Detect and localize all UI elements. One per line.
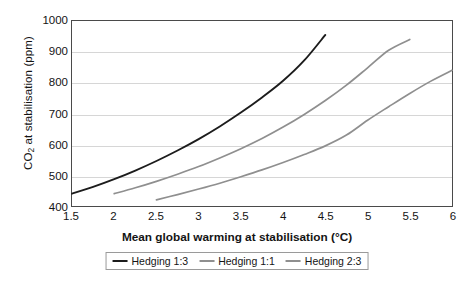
x-axis-tick-label: 6 bbox=[450, 210, 456, 222]
plot-area bbox=[71, 20, 453, 207]
legend-line-icon bbox=[113, 260, 128, 262]
x-axis-tick-label: 5.5 bbox=[403, 210, 419, 222]
x-axis-tick-labels: 1.522.533.544.555.56 bbox=[0, 210, 474, 228]
x-axis-tick-label: 1.5 bbox=[63, 210, 79, 222]
series-line bbox=[72, 35, 325, 194]
legend-item[interactable]: Hedging 1:1 bbox=[199, 255, 275, 267]
series-line bbox=[156, 70, 452, 200]
legend-line-icon bbox=[286, 260, 301, 262]
y-axis-tick-label: 500 bbox=[49, 170, 68, 182]
x-axis-tick-label: 5 bbox=[365, 210, 371, 222]
x-axis-tick-label: 4 bbox=[280, 210, 286, 222]
legend-line-icon bbox=[199, 260, 214, 262]
legend-label: Hedging 2:3 bbox=[305, 255, 362, 267]
x-axis-tick-label: 4.5 bbox=[318, 210, 334, 222]
y-axis-tick-label: 1000 bbox=[42, 14, 68, 26]
chart-legend: Hedging 1:3Hedging 1:1Hedging 2:3 bbox=[106, 252, 369, 270]
legend-item[interactable]: Hedging 1:3 bbox=[113, 255, 189, 267]
series-lines bbox=[72, 21, 452, 206]
x-axis-tick-label: 2.5 bbox=[148, 210, 164, 222]
chart-container: CO2 at stabilisation (ppm) 4005006007008… bbox=[0, 0, 474, 284]
y-axis-tick-label: 600 bbox=[49, 139, 68, 151]
y-axis-tick-label: 900 bbox=[49, 45, 68, 57]
y-axis-tick-label: 800 bbox=[49, 76, 68, 88]
x-axis-title: Mean global warming at stabilisation (°C… bbox=[0, 230, 474, 244]
legend-label: Hedging 1:3 bbox=[132, 255, 189, 267]
legend-item[interactable]: Hedging 2:3 bbox=[286, 255, 362, 267]
y-axis-tick-label: 700 bbox=[49, 108, 68, 120]
x-axis-tick-label: 3.5 bbox=[233, 210, 249, 222]
x-axis-tick-label: 3 bbox=[195, 210, 201, 222]
legend-label: Hedging 1:1 bbox=[218, 255, 275, 267]
x-axis-tick-label: 2 bbox=[110, 210, 116, 222]
